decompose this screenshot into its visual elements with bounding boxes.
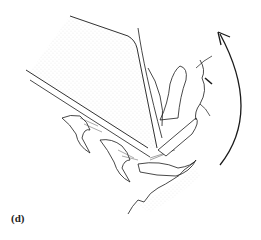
panel-label: (d) <box>11 212 24 224</box>
figure-panel: (d) <box>0 0 261 240</box>
rotation-arrow-icon <box>218 32 241 165</box>
claw-illustration <box>0 0 261 240</box>
stippled-block <box>26 16 162 157</box>
